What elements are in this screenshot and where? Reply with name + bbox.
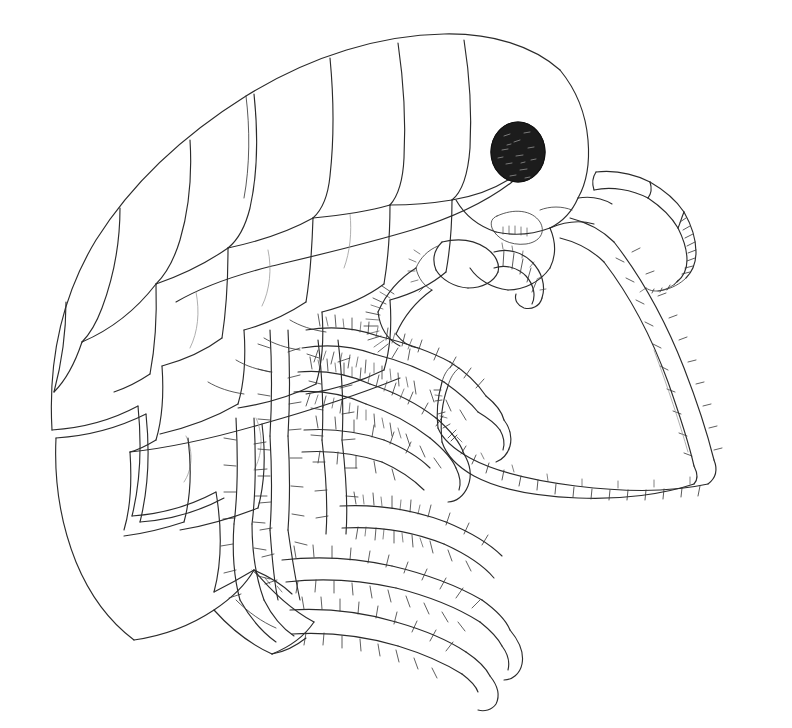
illustration-canvas: amphipod crustacean, lateral view compou… (0, 0, 792, 728)
background (0, 0, 792, 728)
amphipod-illustration (0, 0, 792, 728)
compound-eye (491, 122, 545, 182)
